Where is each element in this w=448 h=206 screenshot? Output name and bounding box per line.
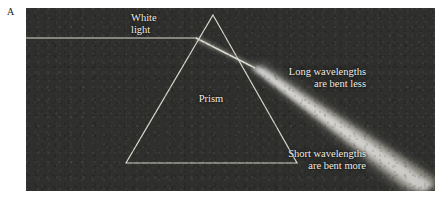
- prism-illustration-panel: White light Prism Long wavelengths are b…: [26, 8, 435, 191]
- caption-white-light-line2: light: [131, 24, 157, 36]
- caption-short-line2: are bent more: [254, 160, 366, 172]
- panel-letter-label: A: [7, 6, 14, 18]
- caption-white-light: White light: [131, 12, 157, 35]
- caption-long-line2: are bent less: [254, 78, 366, 90]
- caption-prism-line1: Prism: [184, 93, 238, 105]
- internal-beam-line: [196, 38, 255, 68]
- caption-short-wavelengths: Short wavelengths are bent more: [254, 148, 366, 171]
- prism-triangle: [126, 15, 297, 163]
- caption-white-light-line1: White: [131, 12, 157, 24]
- caption-prism: Prism: [184, 93, 238, 105]
- internal-refracted-beam: [195, 36, 258, 70]
- caption-short-line1: Short wavelengths: [254, 148, 366, 160]
- caption-long-line1: Long wavelengths: [254, 66, 366, 78]
- caption-long-wavelengths: Long wavelengths are bent less: [254, 66, 366, 89]
- figure-root: A: [0, 0, 448, 206]
